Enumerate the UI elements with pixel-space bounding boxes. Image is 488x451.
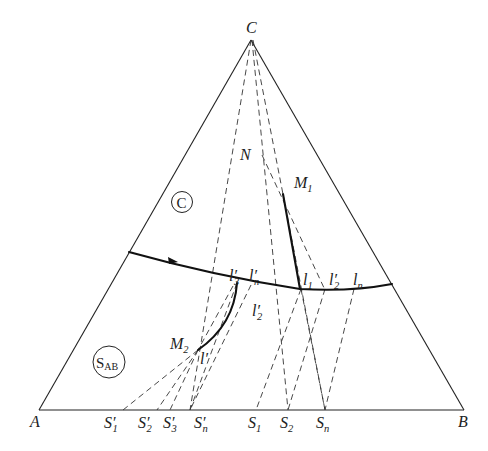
tie-line-l3p [190,283,237,410]
label-M2: M2 [169,335,189,355]
label-C: C [246,19,257,36]
tie-line-l1-S1 [256,289,301,410]
tie-lines-boundary-to-base [190,283,354,410]
label-Sn: Sn [316,414,329,434]
tie-lines-from-C [190,40,325,410]
label-S1-prime: S′1 [104,414,118,434]
edge-CB [251,40,464,410]
label-ln-prime: l′n [249,267,259,287]
label-l1: l1 [303,271,313,291]
label-A: A [29,413,40,430]
label-l2-prime-lower: l′2 [252,302,263,322]
arrow-icon [168,257,178,264]
tie-line-ln-Sn [325,289,354,410]
tie-line-l2p-S2 [288,289,325,410]
edge-AC [39,40,251,410]
label-N: N [239,146,252,163]
tie-line-lp-S1p [123,350,198,410]
phase-C-label: C [177,195,187,211]
label-l3-prime: l′3 [229,267,239,287]
label-S2-prime: S′2 [138,414,153,434]
label-B: B [458,413,468,430]
label-S1: S1 [248,414,261,434]
label-S2: S2 [280,414,294,434]
label-l-prime: l′ [200,350,208,367]
ternary-diagram: C A B C SAB N M1 M2 l′3 l′n l1 l′2 ln l′… [0,0,488,451]
tie-lines-from-l-prime [123,350,198,410]
label-S3-prime: S′3 [163,414,177,434]
phase-SAB-label: SAB [96,355,119,372]
label-Sn-prime: S′n [194,414,208,434]
label-l2-prime: l′2 [329,271,340,291]
path-M1-l1 [283,194,300,289]
base-labels: S′1 S′2 S′3 S′n S1 S2 Sn [104,414,329,434]
label-M1: M1 [293,174,313,194]
